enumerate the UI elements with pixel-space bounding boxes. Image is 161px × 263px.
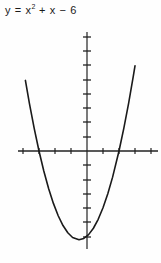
graph-figure: y = x2 + x − 6 bbox=[0, 0, 161, 263]
coordinate-plot bbox=[0, 0, 161, 263]
parabola-curve bbox=[25, 66, 135, 240]
